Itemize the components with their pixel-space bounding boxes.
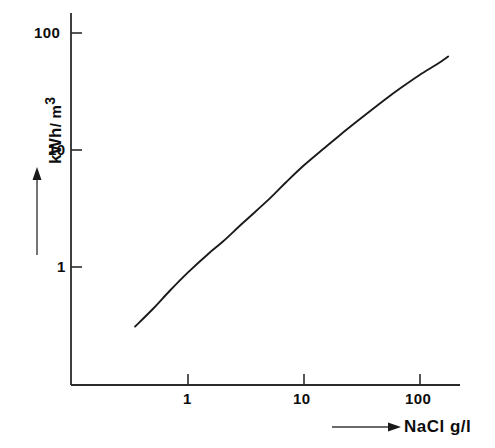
y-axis-arrow-icon [33,167,42,255]
x-axis-arrow-icon [332,423,401,432]
log-log-plot [0,0,495,448]
y-axis-title: kWh/ m3 [42,60,67,200]
y-tick-label-100: 100 [34,24,60,41]
x-tick-label-1: 1 [183,390,192,407]
x-axis-ticks [188,374,420,385]
y-axis-title-main: kWh [46,127,65,164]
chart-figure: 100 10 1 1 10 100 kWh/ m3 NaCl g/l [0,0,495,448]
y-tick-label-1: 1 [57,258,66,275]
y-axis-title-exponent: 3 [42,97,58,105]
x-tick-label-100: 100 [405,390,431,407]
data-curve [135,56,448,326]
x-axis-title: NaCl g/l [404,417,471,437]
x-tick-label-10: 10 [293,390,311,407]
y-axis-title-unit: / m [47,105,64,128]
axes [71,13,460,385]
y-axis-ticks [71,33,82,267]
